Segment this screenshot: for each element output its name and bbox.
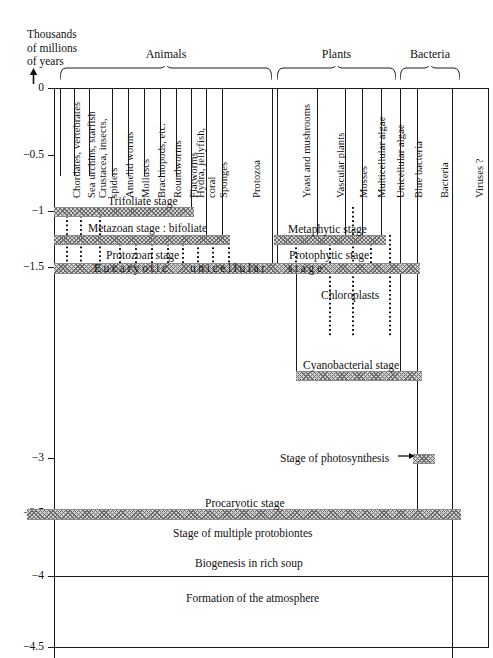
lineage-chloro-a	[329, 272, 331, 336]
stage-label-12: Stage of multiple protobiontes	[173, 527, 313, 539]
column-separator-2	[89, 88, 90, 176]
stage-label-9: Cyanobacterial stage	[303, 359, 399, 371]
band-trifoliate-base	[54, 207, 194, 217]
solid-lineage-bluebact-solid	[400, 88, 401, 379]
group-title-animals: Animals	[106, 48, 226, 61]
stage-label-14: Formation of the atmosphere	[186, 592, 319, 604]
evolution-timeline-figure: Thousands of millions of years 0−0.5−1−1…	[0, 0, 493, 658]
band-metaphytic-base	[274, 235, 386, 245]
y-tick-label-0: 0	[10, 82, 44, 94]
stage-label-1: Metazoan stage : bifoliate	[88, 222, 207, 234]
column-separator-4	[128, 88, 129, 176]
column-separator-1	[74, 88, 75, 176]
solid-lineage-multicell-solid	[362, 88, 363, 243]
column-separator-0	[60, 88, 61, 176]
column-label-9: Sponges	[218, 162, 230, 198]
column-label-10: Protozoa	[251, 160, 263, 198]
group-brace-bacteria	[400, 66, 460, 80]
y-axis-caption-line-1: Thousands	[27, 28, 91, 42]
stage-label-6: Metaphytic stage	[288, 223, 367, 235]
column-label-18: Viruses ?	[474, 158, 486, 198]
column-separator-3	[112, 88, 113, 176]
solid-lineage-col-sponge-solid	[206, 88, 207, 243]
stage-label-3: Eucaryotic	[94, 262, 170, 274]
photosynthesis-arrow-icon	[398, 450, 416, 462]
y-tick-label-4: −3	[10, 452, 44, 464]
y-tick-label-1: −0.5	[10, 149, 44, 161]
rule-minus-4	[54, 576, 488, 577]
rule-minus-4-5	[54, 647, 488, 648]
solid-lineage-mosses-solid	[345, 88, 346, 243]
stage-label-2: Protozoan stage	[106, 249, 179, 261]
stage-label-0: Trifoliate stage	[108, 195, 178, 207]
stage-label-5: stage	[288, 262, 325, 274]
stage-label-7: Protophytic stage	[289, 249, 369, 261]
column-label-0: Chordates, vertebrates	[71, 102, 83, 198]
stage-label-11: Procaryotic stage	[205, 497, 285, 509]
group-brace-animals	[60, 66, 272, 80]
band-metazoan-base	[54, 235, 230, 245]
column-label-5: Brachiopods, etc.	[156, 123, 168, 198]
column-label-16: Blue bacteria	[413, 141, 425, 198]
y-tick-label-7: −4.5	[10, 641, 44, 653]
band-photosynthesis-tip	[413, 454, 435, 464]
group-title-bacteria: Bacteria	[370, 48, 490, 61]
column-separator-7	[176, 88, 177, 176]
y-tick-label-3: −1.5	[10, 261, 44, 273]
solid-lineage-bacteria-solid	[417, 88, 418, 513]
lineage-chloro-c	[389, 272, 391, 336]
stage-label-8: Chloroplasts	[321, 289, 379, 301]
solid-lineage-vascular-solid	[317, 88, 318, 243]
solid-lineage-cyano-left-solid	[296, 272, 297, 379]
column-label-4: Molluscs	[140, 159, 152, 198]
column-label-3: Annelid worms	[124, 132, 136, 198]
column-label-13: Mosses	[358, 166, 370, 198]
column-label-2: Crustacea, insects,spiders	[97, 118, 119, 198]
stage-label-13: Biogenesis in rich soup	[195, 557, 303, 569]
group-brace-plants	[277, 66, 396, 80]
solid-lineage-col-flatworm-solid	[191, 88, 192, 215]
y-tick-label-2: −1	[10, 205, 44, 217]
y-axis-caption-line-2: of millions	[27, 42, 91, 56]
solid-lineage-col-hydra-solid	[222, 88, 223, 243]
column-label-11: Yeast and mushrooms	[301, 104, 313, 198]
frame-left	[54, 88, 55, 658]
stage-label-4: unicellular	[190, 262, 268, 274]
y-tick-label-6: −4	[10, 570, 44, 582]
band-procaryotic-base	[27, 509, 461, 520]
solid-lineage-viruses-solid	[452, 88, 453, 658]
lineage-chloro-b	[352, 272, 354, 336]
column-label-1: Sea urchins, starfish	[86, 111, 98, 198]
stage-label-10: Stage of photosynthesis	[280, 452, 389, 464]
band-cyanobacterial-base	[296, 371, 422, 381]
column-separator-5	[144, 88, 145, 176]
solid-lineage-protozoa-solid	[272, 88, 273, 272]
column-separator-6	[160, 88, 161, 176]
y-axis-caption: Thousands of millions of years	[27, 28, 91, 69]
solid-lineage-unicell-left-solid	[381, 88, 382, 243]
frame-top	[54, 88, 488, 89]
column-label-6: Roundworms	[172, 140, 184, 198]
column-label-17: Bacteria	[439, 162, 451, 198]
column-separator-last	[488, 88, 489, 176]
